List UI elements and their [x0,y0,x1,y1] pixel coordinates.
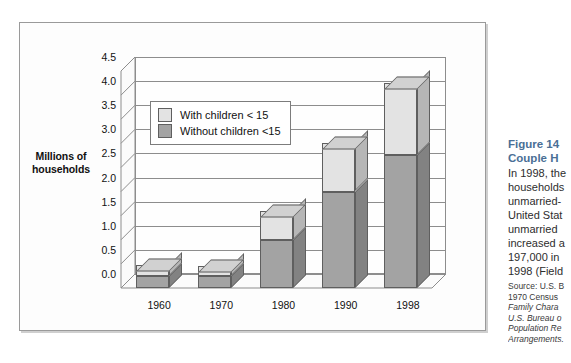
y-axis-tick-label: 1.0 [86,220,116,232]
left-side-wall [121,57,135,288]
y-axis-tick-label: 4.5 [86,51,116,63]
legend-swatch [158,124,172,138]
y-axis-tick-label: 0.5 [86,244,116,256]
y-axis-tick-label: 0.0 [86,268,116,280]
y-axis-tick-label: 4.0 [86,75,116,87]
bar-front-face [322,143,355,191]
caption-source-line: Family Chara [508,302,571,313]
y-axis-tick-labels: 4.54.03.53.02.52.01.51.00.50.0 [83,57,116,288]
caption-body-line: United Stat [508,208,571,222]
bar-segment-without-children-15[interactable] [198,276,231,288]
x-axis-tick-label: 1990 [320,299,372,311]
bar-1998[interactable] [384,57,417,288]
bar-front-face [384,155,417,288]
caption-body-line: 1998 (Field [508,264,571,278]
caption-source-line: U.S. Bureau o [508,313,571,324]
bar-segment-without-children-15[interactable] [260,240,293,288]
plot-area [121,57,446,288]
bar-segment-with-children-15[interactable] [384,83,417,155]
caption-body-line: In 1998, the [508,166,571,180]
legend-item-without-children[interactable]: Without children <15 [158,123,281,139]
bar-1960[interactable] [136,57,169,288]
caption-source-line: Arrangements. [508,334,571,345]
y-axis-tick-label: 2.5 [86,147,116,159]
bar-segment-without-children-15[interactable] [136,276,169,288]
x-axis-tick-label: 1960 [133,299,185,311]
caption-body-line: increased a [508,236,571,250]
caption-body-line: unmarried [508,222,571,236]
bar-1990[interactable] [322,57,355,288]
bar-front-face [260,240,293,288]
figure-caption: Figure 14Couple H In 1998, thehouseholds… [508,138,571,344]
legend-swatch [158,108,172,122]
caption-title: Figure 14Couple H [508,138,571,165]
y-axis-tick-label: 1.5 [86,196,116,208]
bar-front-face [136,276,169,288]
chart-legend: With children < 15Without children <15 [150,101,291,145]
bar-front-face [322,192,355,288]
bar-segment-with-children-15[interactable] [322,143,355,191]
bar-side-face [417,142,430,288]
bar-side-face [355,179,368,288]
x-axis-tick-labels: 19601970198019901998 [121,299,451,315]
y-axis-tick-label: 3.0 [86,123,116,135]
caption-title-line: Couple H [508,152,571,166]
bar-1970[interactable] [198,57,231,288]
legend-label: With children < 15 [180,109,268,121]
caption-body-line: 197,000 in [508,250,571,264]
bar-segment-without-children-15[interactable] [384,155,417,288]
bar-front-face [198,276,231,288]
x-axis-tick-label: 1980 [258,299,310,311]
bar-segment-without-children-15[interactable] [322,192,355,288]
caption-source-line: Population Re [508,323,571,334]
legend-label: Without children <15 [180,125,281,137]
y-axis-tick-label: 2.0 [86,172,116,184]
legend-item-with-children[interactable]: With children < 15 [158,107,281,123]
caption-body-line: unmarried- [508,194,571,208]
bar-front-face [384,83,417,155]
x-axis-tick-label: 1998 [382,299,434,311]
caption-title-line: Figure 14 [508,138,571,152]
bar-1980[interactable] [260,57,293,288]
caption-source-line: Source: U.S. B [508,281,571,292]
caption-source-line: 1970 Census [508,292,571,303]
caption-body-line: households [508,180,571,194]
x-axis-tick-label: 1970 [195,299,247,311]
caption-source: Source: U.S. B1970 CensusFamily CharaU.S… [508,281,571,344]
caption-body: In 1998, thehouseholdsunmarried-United S… [508,166,571,278]
y-axis-tick-label: 3.5 [86,99,116,111]
